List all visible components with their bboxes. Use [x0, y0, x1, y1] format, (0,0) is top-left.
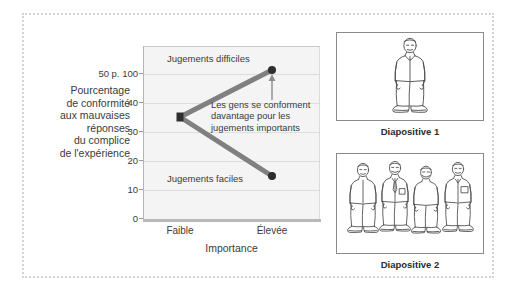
slide-1-panel: Diapositive 1 [336, 32, 484, 137]
data-point-elevee-difficult [268, 66, 276, 74]
annotation-line-1: Les gens se conforment [211, 100, 319, 111]
slide-2-panel: Diapositive 2 [336, 153, 484, 270]
slide-2-caption: Diapositive 2 [336, 259, 484, 270]
annotation-line-2: davantage pour les [211, 111, 319, 122]
slide-2-frame [336, 153, 484, 254]
data-point-faible [177, 113, 184, 122]
annotation-line-3: jugements importants [211, 123, 319, 134]
slide-1-frame [336, 32, 484, 121]
chart-series-svg [0, 0, 330, 292]
annotation-arrow-head [269, 74, 276, 81]
one-standing-man-icon [337, 33, 483, 120]
data-point-elevee-easy [268, 172, 276, 180]
chart-annotation: Les gens se conforment davantage pour le… [211, 100, 319, 134]
slide-1-caption: Diapositive 1 [336, 126, 484, 137]
figure-container: Jugements difficiles Jugements faciles 5… [0, 0, 513, 292]
line-chart: Jugements difficiles Jugements faciles 5… [0, 0, 330, 292]
four-standing-men-icon [337, 154, 483, 253]
